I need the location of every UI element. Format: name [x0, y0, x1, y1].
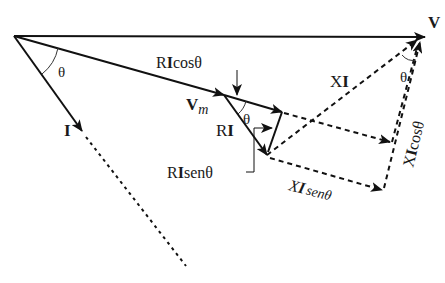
- label-vm: Vm: [186, 95, 208, 117]
- label-theta-v: θ: [400, 69, 407, 85]
- label-ri: RI: [216, 121, 234, 140]
- label-theta-origin: θ: [58, 64, 65, 80]
- label-i: I: [64, 121, 71, 140]
- label-v: V: [428, 13, 441, 32]
- label-risen: RIsenθ: [167, 164, 213, 181]
- label-xi: XI: [330, 72, 349, 91]
- v-phasor: [14, 36, 425, 37]
- phasor-diagram: V Vm I θ θ θ RIcosθ RI RIsenθ XI XIsenθ …: [0, 0, 445, 283]
- xisen-phasor: [270, 158, 382, 190]
- label-theta-ri: θ: [243, 111, 250, 127]
- xi-phasor: [267, 40, 417, 155]
- ricos-extension-dashed: [284, 113, 390, 142]
- label-ricos: RIcosθ: [156, 54, 202, 71]
- label-xisen: XIsenθ: [286, 176, 333, 203]
- ricos-phasor: [224, 95, 282, 112]
- i-extension-dashed: [86, 137, 186, 266]
- theta-arc-origin: [42, 48, 58, 74]
- label-xicos: XIcosθ: [399, 119, 427, 169]
- risen-phasor: [268, 112, 282, 152]
- i-phasor: [14, 36, 82, 131]
